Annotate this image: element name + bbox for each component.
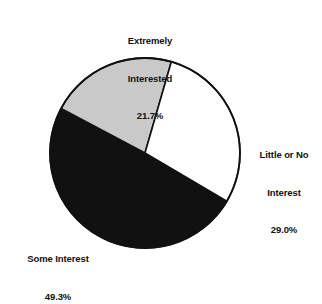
- pie-label-extremely-line1: Extremely: [96, 35, 204, 48]
- pie-label-some-line1: Some Interest: [6, 253, 110, 266]
- pie-label-little-line1: Little or No: [246, 149, 322, 162]
- pie-label-little-or-no-interest: Little or No Interest 29.0%: [246, 124, 322, 262]
- pie-label-extremely-interested: Extremely Interested 21.7%: [96, 10, 204, 148]
- pie-label-some-percent: 49.3%: [6, 291, 110, 304]
- pie-label-some-interest: Some Interest 49.3%: [6, 228, 110, 304]
- pie-label-extremely-percent: 21.7%: [96, 110, 204, 123]
- pie-label-little-percent: 29.0%: [246, 224, 322, 237]
- pie-label-extremely-line2: Interested: [96, 73, 204, 86]
- pie-label-little-line2: Interest: [246, 187, 322, 200]
